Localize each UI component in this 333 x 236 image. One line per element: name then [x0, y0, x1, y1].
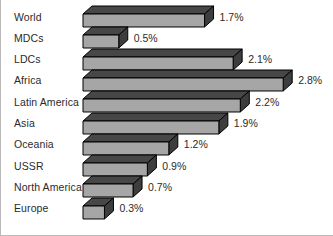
category-label: North America [14, 181, 82, 193]
category-label: LDCs [14, 53, 41, 65]
bar [83, 198, 115, 219]
value-label: 2.8% [298, 74, 322, 86]
value-label: 2.2% [255, 96, 279, 108]
category-label: USSR [14, 160, 44, 172]
bar-row: Oceania1.2% [1, 134, 333, 155]
value-label: 0.7% [148, 181, 172, 193]
bar-row: Africa2.8% [1, 70, 333, 91]
category-label: Latin America [14, 96, 79, 108]
bar [83, 27, 130, 48]
bar [83, 176, 144, 197]
value-label: 1.7% [220, 11, 244, 23]
bar [83, 91, 251, 112]
category-label: Africa [14, 74, 41, 86]
bar-row: MDCs0.5% [1, 27, 333, 48]
category-label: MDCs [14, 32, 44, 44]
bar [83, 70, 294, 91]
value-label: 2.1% [248, 53, 272, 65]
value-label: 0.5% [134, 32, 158, 44]
category-label: Oceania [14, 138, 54, 150]
plot-area: World1.7%MDCs0.5%LDCs2.1%Africa2.8%Latin… [1, 0, 333, 236]
bar [83, 49, 244, 70]
category-label: World [14, 11, 42, 23]
bar-chart: World1.7%MDCs0.5%LDCs2.1%Africa2.8%Latin… [0, 0, 333, 236]
bar [83, 6, 216, 27]
bar [83, 155, 158, 176]
bar-row: USSR0.9% [1, 155, 333, 176]
value-label: 1.2% [184, 138, 208, 150]
bar-row: Asia1.9% [1, 113, 333, 134]
bar-row: North America0.7% [1, 176, 333, 197]
value-label: 1.9% [234, 117, 258, 129]
category-label: Europe [14, 202, 48, 214]
bar [83, 113, 230, 134]
bar-row: World1.7% [1, 6, 333, 27]
value-label: 0.9% [162, 160, 186, 172]
bar-row: LDCs2.1% [1, 49, 333, 70]
bar-row: Latin America2.2% [1, 91, 333, 112]
value-label: 0.3% [119, 202, 143, 214]
bar [83, 134, 180, 155]
bar-row: Europe0.3% [1, 198, 333, 219]
category-label: Asia [14, 117, 35, 129]
